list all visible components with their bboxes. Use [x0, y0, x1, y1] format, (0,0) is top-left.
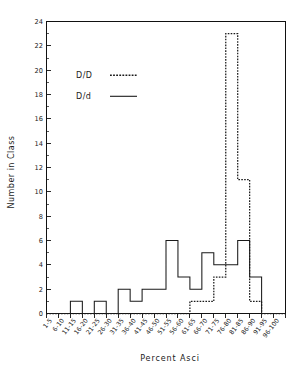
y-tick-label: 10: [34, 188, 43, 196]
y-tick-label: 14: [34, 140, 43, 148]
y-axis-title: Number in Class: [7, 135, 16, 208]
y-tick-label: 6: [39, 237, 43, 245]
chart-canvas: 024681012141618202224 1-56-1011-1516-202…: [0, 0, 303, 377]
legend-label-0: D/D: [76, 71, 93, 80]
y-tick-label: 0: [39, 310, 43, 318]
y-tick-label: 4: [39, 261, 43, 269]
y-axis-tick-labels: 024681012141618202224: [34, 18, 43, 318]
y-tick-label: 22: [34, 42, 43, 50]
x-axis-title: Percent Asci: [140, 354, 200, 363]
histogram-figure: 024681012141618202224 1-56-1011-1516-202…: [0, 0, 303, 377]
series-d-d: [47, 241, 286, 314]
y-tick-label: 20: [34, 67, 43, 75]
legend-label-1: D/d: [76, 92, 91, 101]
chart-legend: D/D D/d: [76, 71, 137, 101]
x-axis-tick-labels: 1-56-1011-1516-2021-2526-3031-3536-4041-…: [41, 317, 280, 339]
y-tick-label: 18: [34, 91, 43, 99]
y-tick-label: 16: [34, 115, 43, 123]
y-tick-label: 8: [39, 213, 43, 221]
y-tick-label: 12: [34, 164, 43, 172]
y-tick-label: 24: [34, 18, 43, 26]
y-axis-ticks: [47, 22, 52, 314]
y-tick-label: 2: [39, 286, 43, 294]
